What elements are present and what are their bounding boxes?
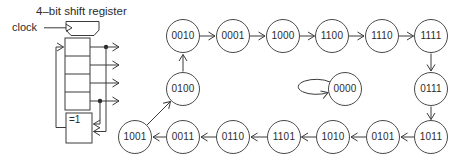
state-node-1110: 1110 bbox=[365, 19, 399, 53]
figure-title: 4–bit shift register bbox=[36, 5, 127, 17]
dynamic-input-chevron-icon bbox=[66, 24, 72, 31]
xor-input-wire-q3 bbox=[94, 101, 101, 124]
clock-label: clock bbox=[12, 21, 37, 33]
transition-0000-self-loop bbox=[298, 79, 330, 94]
state-node-0001: 0001 bbox=[216, 19, 250, 53]
state-node-1111: 1111 bbox=[414, 19, 448, 53]
state-node-0010: 0010 bbox=[166, 19, 200, 53]
state-node-1011: 1011 bbox=[414, 120, 448, 154]
state-node-0100: 0100 bbox=[166, 72, 200, 106]
state-node-0000: 0000 bbox=[328, 72, 362, 106]
xor-gate-label: =1 bbox=[69, 114, 80, 125]
state-node-0101: 0101 bbox=[366, 120, 400, 154]
state-node-1100: 1100 bbox=[315, 19, 349, 53]
shift-register-state-diagram-figure: 4–bit shift register clock =1 0010 0001 … bbox=[0, 0, 465, 166]
state-node-1101: 1101 bbox=[267, 120, 301, 154]
state-node-1010: 1010 bbox=[316, 120, 350, 154]
state-node-1000: 1000 bbox=[266, 19, 300, 53]
state-node-1001: 1001 bbox=[118, 120, 152, 154]
state-node-0011: 0011 bbox=[166, 120, 200, 154]
state-node-0111: 0111 bbox=[414, 72, 448, 106]
state-node-0110: 0110 bbox=[216, 120, 250, 154]
transition-1001-0100 bbox=[147, 102, 171, 126]
